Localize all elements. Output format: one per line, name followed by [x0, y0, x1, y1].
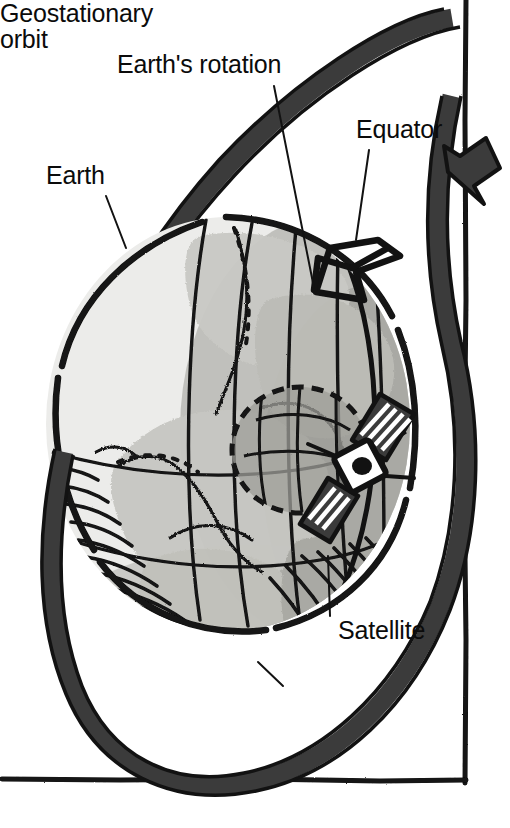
label-satellite: Satellite: [338, 617, 425, 643]
leader-geostationary-orbit: [258, 662, 283, 686]
leader-equator: [356, 150, 369, 240]
geostationary-orbit-figure: Earth Earth's rotation Equator Satellite…: [0, 0, 510, 828]
leader-earth: [106, 196, 126, 248]
label-earth: Earth: [46, 162, 105, 188]
label-equator: Equator: [356, 116, 442, 142]
label-earths-rotation: Earth's rotation: [117, 51, 281, 77]
